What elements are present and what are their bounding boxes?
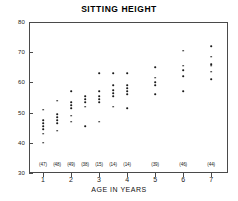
scatter-point	[126, 107, 128, 109]
scatter-point	[154, 82, 156, 84]
y-tick-mark	[29, 82, 33, 83]
scatter-point	[42, 125, 44, 127]
group-count-label: (49)	[67, 162, 75, 167]
scatter-point	[182, 91, 184, 93]
scatter-point	[112, 106, 114, 108]
scatter-point	[154, 67, 156, 69]
scatter-point	[84, 101, 86, 103]
x-tick-mark	[183, 173, 184, 177]
x-tick-mark	[43, 173, 44, 177]
y-tick-mark	[29, 52, 33, 53]
scatter-point	[70, 121, 72, 123]
scatter-point	[42, 128, 44, 130]
scatter-point	[112, 92, 114, 94]
scatter-point	[56, 116, 58, 118]
x-tick-mark	[155, 173, 156, 177]
scatter-point	[98, 121, 100, 123]
scatter-point	[154, 94, 156, 96]
x-tick-label: 7	[202, 176, 220, 183]
scatter-point	[182, 76, 184, 78]
scatter-point	[210, 65, 212, 67]
scatter-point	[112, 95, 114, 97]
y-tick-label: 30	[3, 170, 25, 176]
scatter-point	[56, 119, 58, 121]
x-tick-label: 1	[34, 176, 52, 183]
y-tick-label: 70	[3, 49, 25, 55]
scatter-point	[154, 85, 156, 87]
plot-area	[29, 22, 228, 173]
scatter-point	[56, 130, 58, 132]
x-tick-label: 6	[174, 176, 192, 183]
scatter-point	[126, 73, 128, 75]
y-tick-mark	[29, 143, 33, 144]
scatter-point	[210, 56, 212, 58]
scatter-point	[126, 85, 128, 87]
scatter-point	[98, 98, 100, 100]
x-tick-label: 4	[118, 176, 136, 183]
scatter-point	[98, 73, 100, 75]
x-tick-mark	[211, 173, 212, 177]
x-tick-label: 2	[62, 176, 80, 183]
scatter-point	[112, 73, 114, 75]
scatter-point	[84, 125, 86, 127]
scatter-point	[112, 85, 114, 87]
scatter-point	[42, 119, 44, 121]
scatter-point	[182, 70, 184, 72]
scatter-point	[84, 106, 86, 108]
x-tick-mark	[99, 173, 100, 177]
scatter-point	[98, 91, 100, 93]
group-count-label: (14)	[123, 162, 131, 167]
scatter-point	[56, 113, 58, 115]
scatter-point	[210, 71, 212, 73]
scatter-point	[56, 100, 58, 102]
scatter-point	[154, 77, 156, 79]
x-axis-title: AGE IN YEARS	[0, 186, 238, 193]
y-tick-label: 60	[3, 79, 25, 85]
scatter-point	[98, 101, 100, 103]
y-tick-mark	[29, 173, 33, 174]
scatter-point	[126, 88, 128, 90]
group-count-label: (44)	[207, 162, 215, 167]
scatter-point	[70, 101, 72, 103]
y-tick-mark	[29, 22, 33, 23]
scatter-point	[70, 107, 72, 109]
group-count-label: (14)	[109, 162, 117, 167]
scatter-point	[84, 98, 86, 100]
scatter-point	[70, 91, 72, 93]
y-tick-label: 40	[3, 140, 25, 146]
chart-root: SITTING HEIGHT 304050607080 1234567 (47)…	[0, 0, 238, 201]
scatter-point	[84, 95, 86, 97]
scatter-point	[112, 89, 114, 91]
scatter-point	[182, 50, 184, 52]
group-count-label: (39)	[151, 162, 159, 167]
y-tick-mark	[29, 113, 33, 114]
scatter-point	[56, 122, 58, 124]
group-count-label: (46)	[179, 162, 187, 167]
scatter-point	[70, 104, 72, 106]
scatter-point	[210, 79, 212, 81]
scatter-point	[210, 45, 212, 47]
scatter-point	[42, 109, 44, 111]
group-count-label: (48)	[53, 162, 61, 167]
y-tick-label: 50	[3, 110, 25, 116]
x-tick-mark	[71, 173, 72, 177]
group-count-label: (15)	[95, 162, 103, 167]
y-tick-label: 80	[3, 19, 25, 25]
group-count-label: (38)	[81, 162, 89, 167]
group-count-label: (47)	[39, 162, 47, 167]
chart-title: SITTING HEIGHT	[0, 4, 238, 14]
scatter-point	[42, 122, 44, 124]
scatter-point	[42, 142, 44, 144]
x-tick-mark	[127, 173, 128, 177]
scatter-point	[70, 115, 72, 117]
scatter-point	[182, 65, 184, 67]
scatter-point	[126, 94, 128, 96]
x-tick-label: 5	[146, 176, 164, 183]
x-tick-label: 3	[90, 176, 108, 183]
scatter-point	[42, 133, 44, 135]
scatter-point	[126, 91, 128, 93]
scatter-point	[98, 95, 100, 97]
